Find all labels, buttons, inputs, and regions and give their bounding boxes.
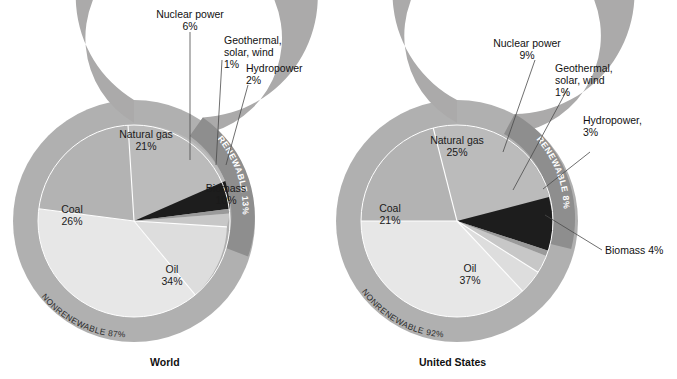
figure-canvas: NONRENEWABLE 87% RENEWABLE 13% Natural g… (0, 0, 677, 379)
callout-nuclear-power-value-world: 6% (182, 20, 197, 32)
callout-nuclear-power-world: Nuclear power (156, 8, 224, 20)
callout-nuclear-power-value-us: 9% (519, 49, 534, 61)
caption-united-states: United States (419, 356, 486, 368)
label-oil-value-us: 37% (459, 274, 480, 286)
callout-geothermal-line2-world: solar, wind (224, 46, 274, 58)
pie-chart-world: NONRENEWABLE 87% RENEWABLE 13% Natural g… (13, 0, 318, 342)
callout-geothermal-line2-us: solar, wind (555, 74, 605, 86)
label-natural-gas-world: Natural gas (119, 128, 173, 140)
label-oil-value-world: 34% (161, 275, 182, 287)
label-biomass-value-world: 10% (215, 194, 236, 206)
label-coal-us: Coal (379, 202, 401, 214)
label-coal-world: Coal (61, 203, 83, 215)
label-oil-world: Oil (166, 263, 179, 275)
callout-hydropower-value-world: 2% (246, 74, 261, 86)
callout-geothermal-value-world: 1% (224, 58, 239, 70)
label-biomass-world: Biomass (206, 182, 246, 194)
callout-hydropower-value-us: 3% (583, 126, 598, 138)
callout-geothermal-world: Geothermal, (224, 34, 282, 46)
label-oil-us: Oil (464, 262, 477, 274)
label-natural-gas-us: Natural gas (430, 134, 484, 146)
callout-hydropower-us: Hydropower, (583, 114, 642, 126)
callout-nuclear-power-us: Nuclear power (493, 37, 561, 49)
label-natural-gas-value-world: 21% (135, 140, 156, 152)
pie-chart-united-states: NONRENEWABLE 92% RENEWABLE 8% Natural ga… (336, 0, 663, 342)
callout-geothermal-value-us: 1% (555, 86, 570, 98)
callout-geothermal-us: Geothermal, (555, 62, 613, 74)
label-coal-value-world: 26% (61, 215, 82, 227)
label-coal-value-us: 21% (379, 214, 400, 226)
caption-world: World (150, 356, 180, 368)
label-natural-gas-value-us: 25% (446, 146, 467, 158)
callout-hydropower-world: Hydropower (246, 62, 303, 74)
callout-biomass-us: Biomass 4% (605, 244, 663, 256)
